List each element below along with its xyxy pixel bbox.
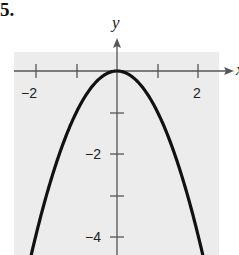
problem-number: 5.: [0, 0, 14, 20]
x-tick-label-minus2: −2: [21, 85, 37, 101]
x-axis-label: x: [235, 60, 239, 79]
y-tick-label-minus4: −4: [85, 229, 101, 245]
y-axis-label: y: [110, 13, 120, 32]
parabola-graph: 5. −2 2 x −2 −4 y: [0, 0, 239, 255]
x-tick-label-2: 2: [193, 85, 201, 101]
y-tick-label-minus2: −2: [85, 146, 101, 162]
